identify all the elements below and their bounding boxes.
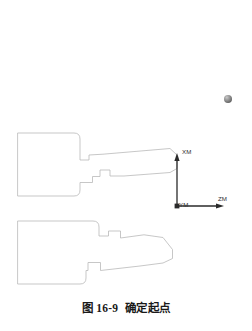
figure-page: XM ZM YM 图 16-9确定起点	[0, 0, 252, 331]
lower-part-profile	[18, 221, 173, 284]
figure-caption-title: 确定起点	[125, 302, 170, 314]
xm-axis-arrowhead	[174, 153, 179, 161]
figure-caption: 图 16-9确定起点	[0, 299, 252, 315]
ym-axis-label: YM	[179, 201, 188, 208]
start-point-marker	[224, 95, 232, 103]
upper-part-profile	[18, 133, 177, 196]
xm-axis-label: XM	[182, 148, 191, 155]
zm-axis-label: ZM	[218, 195, 227, 202]
cad-drawing-canvas: XM ZM YM	[0, 0, 252, 331]
figure-caption-number: 图 16-9	[82, 302, 118, 314]
zm-axis-arrowhead	[216, 203, 224, 208]
